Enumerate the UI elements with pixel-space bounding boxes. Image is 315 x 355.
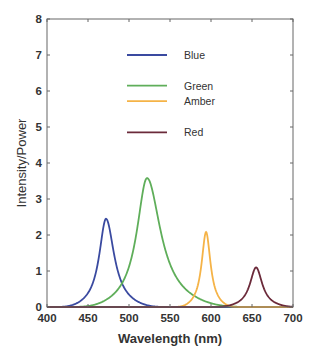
- legend: BlueGreenAmberRed: [127, 49, 215, 138]
- legend-label-amber: Amber: [184, 95, 215, 107]
- legend-label-blue: Blue: [184, 49, 205, 61]
- x-axis-title: Wavelength (nm): [118, 331, 222, 346]
- y-tick-label: 0: [36, 301, 42, 313]
- axes: 400450500550600650700012345678: [36, 13, 303, 324]
- series-line-amber: [47, 232, 293, 307]
- x-tick-label: 650: [242, 312, 261, 324]
- x-tick-label: 700: [283, 312, 302, 324]
- x-tick-label: 550: [160, 312, 179, 324]
- y-tick-label: 1: [36, 265, 43, 277]
- y-tick-label: 4: [36, 157, 43, 169]
- y-axis-title: Intensity/Power: [14, 118, 29, 208]
- x-tick-label: 400: [37, 312, 56, 324]
- legend-label-green: Green: [184, 80, 213, 92]
- plot-area: [47, 178, 293, 307]
- x-tick-label: 600: [201, 312, 220, 324]
- y-tick-label: 5: [36, 121, 43, 133]
- series-line-green: [47, 178, 293, 307]
- led-spectrum-chart: 400450500550600650700012345678 BlueGreen…: [0, 0, 315, 355]
- y-tick-label: 2: [36, 229, 42, 241]
- legend-label-red: Red: [184, 126, 203, 138]
- y-tick-label: 7: [36, 49, 42, 61]
- y-tick-label: 8: [36, 13, 43, 25]
- x-tick-label: 450: [78, 312, 97, 324]
- y-tick-label: 3: [36, 193, 42, 205]
- series-line-red: [47, 267, 293, 307]
- y-tick-label: 6: [36, 85, 42, 97]
- x-tick-label: 500: [119, 312, 138, 324]
